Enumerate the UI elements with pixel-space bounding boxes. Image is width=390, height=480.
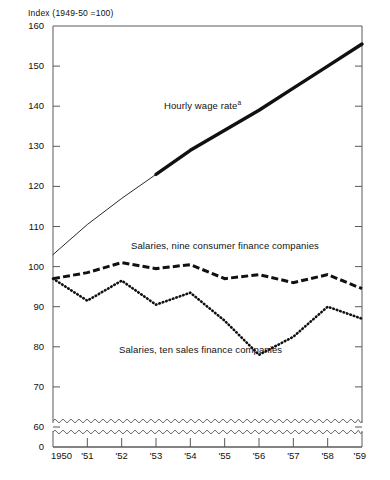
y-axis-tick-label: 130 xyxy=(18,140,44,151)
y-axis-tick-label: 80 xyxy=(18,341,44,352)
x-axis-tick-label: '51 xyxy=(77,450,97,461)
x-axis-tick-label: '59 xyxy=(346,450,366,461)
y-axis-tick-label: 60 xyxy=(18,421,44,432)
chart-container: Index (1949-50 =100) 1601501401301201101… xyxy=(0,0,390,480)
x-axis-tick-label: '55 xyxy=(215,450,235,461)
x-axis-tick-label: '57 xyxy=(283,450,303,461)
x-axis-ticks xyxy=(87,438,327,447)
axis-break-squiggle xyxy=(53,419,362,433)
y-axis-tick-label: 0 xyxy=(18,441,44,452)
plot-frame xyxy=(53,26,362,447)
y-axis-tick-label: 110 xyxy=(18,221,44,232)
y-axis-tick-label: 140 xyxy=(18,100,44,111)
x-axis-tick-label: '53 xyxy=(146,450,166,461)
x-axis-tick-label: '56 xyxy=(249,450,269,461)
footnote-marker-a: a xyxy=(237,99,241,106)
y-axis-tick-label: 70 xyxy=(18,381,44,392)
series-consumer-finance-salaries xyxy=(53,263,362,289)
series-label-consumer-finance: Salaries, nine consumer finance companie… xyxy=(131,240,319,251)
x-axis-tick-label: '52 xyxy=(112,450,132,461)
y-axis-tick-label: 100 xyxy=(18,261,44,272)
data-series-group xyxy=(53,44,362,355)
series-label-hourly-wage-rate: Hourly wage ratea xyxy=(164,100,241,111)
y-axis-tick-label: 120 xyxy=(18,180,44,191)
series-hourly-wage-rate xyxy=(53,44,362,255)
series-label-sales-finance: Salaries, ten sales finance companies xyxy=(119,344,282,355)
y-axis-tick-label: 160 xyxy=(18,20,44,31)
x-axis-tick-label: '54 xyxy=(180,450,200,461)
y-axis-tick-label: 90 xyxy=(18,301,44,312)
y-axis-tick-label: 150 xyxy=(18,60,44,71)
x-axis-tick-label: '58 xyxy=(318,450,338,461)
series-label-hourly-wage-rate-text: Hourly wage rate xyxy=(164,100,237,111)
